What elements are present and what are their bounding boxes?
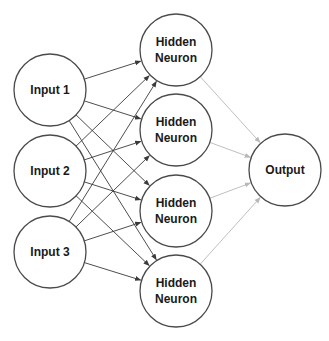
edge-h3-to-out-arrow [210, 183, 251, 198]
connections [69, 61, 260, 280]
edge-in3-to-h2-arrow [76, 156, 149, 227]
hidden-node-2: HiddenNeuron [140, 94, 212, 166]
node-label: Neuron [155, 51, 197, 65]
edge-h2-to-out-arrow [210, 142, 251, 157]
nodes: Input 1Input 2Input 3HiddenNeuronHiddenN… [14, 14, 321, 327]
edge-in2-to-h2-arrow [84, 141, 141, 160]
edge-in2-to-h3-arrow [84, 182, 140, 200]
edge-in1-to-h1-arrow [84, 61, 140, 79]
hidden-node-1: HiddenNeuron [140, 14, 212, 86]
edge-in1-to-h2-arrow [84, 101, 140, 119]
node-label: Hidden [156, 35, 197, 49]
node-circle [140, 14, 212, 86]
node-label: Hidden [156, 196, 197, 210]
node-circle [140, 94, 212, 166]
hidden-node-3: HiddenNeuron [140, 175, 212, 247]
node-label: Hidden [156, 276, 197, 290]
node-label: Input 3 [30, 245, 70, 259]
node-label: Output [265, 163, 304, 177]
node-label: Neuron [155, 131, 197, 145]
node-label: Hidden [156, 115, 197, 129]
edge-in3-to-h3-arrow [84, 222, 141, 241]
node-circle [140, 175, 212, 247]
input-node-3: Input 3 [14, 216, 86, 288]
input-node-1: Input 1 [14, 54, 86, 126]
input-node-2: Input 2 [14, 135, 86, 207]
output-node-1: Output [249, 134, 321, 206]
node-label: Neuron [155, 292, 197, 306]
neural-network-diagram: Input 1Input 2Input 3HiddenNeuronHiddenN… [0, 0, 329, 341]
node-label: Input 1 [30, 83, 70, 97]
node-label: Input 2 [30, 164, 70, 178]
node-label: Neuron [155, 212, 197, 226]
node-circle [140, 255, 212, 327]
hidden-node-4: HiddenNeuron [140, 255, 212, 327]
edge-in3-to-h4-arrow [84, 263, 140, 281]
